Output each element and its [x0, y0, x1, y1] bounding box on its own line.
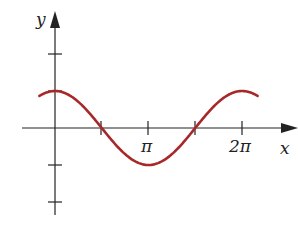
x-tick-label-2pi: 2π [228, 136, 252, 156]
x-tick-label-pi: π [140, 136, 153, 156]
cosine-graph: y x π 2π [0, 0, 298, 227]
x-axis-label: x [280, 138, 290, 158]
x-axis-arrow-icon [281, 123, 298, 133]
y-axis-label: y [35, 9, 46, 29]
y-axis-arrow-icon [50, 11, 60, 28]
